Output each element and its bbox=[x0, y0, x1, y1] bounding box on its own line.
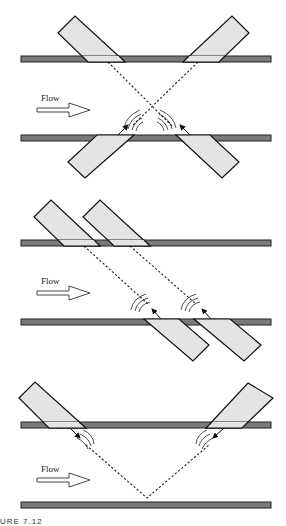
wave-icon bbox=[131, 294, 200, 312]
flowmeter-diagram: Flow Flow bbox=[0, 0, 286, 526]
arrow-icon bbox=[152, 309, 161, 319]
flow-arrow-icon bbox=[37, 473, 90, 487]
transducer-top-right bbox=[183, 16, 249, 62]
arrow-icon bbox=[213, 428, 224, 438]
transducer-top-left-face bbox=[82, 56, 125, 62]
beam-path-2 bbox=[130, 246, 196, 304]
beam-path-1 bbox=[84, 246, 148, 304]
panel-cross-path: Flow bbox=[21, 16, 271, 178]
arrow-icon bbox=[180, 125, 190, 135]
flow-label: Flow bbox=[41, 93, 60, 103]
arrow-icon bbox=[118, 125, 128, 135]
beam-v-path bbox=[86, 445, 209, 498]
pipe-wall-top bbox=[21, 56, 271, 62]
wave-icon bbox=[124, 110, 176, 131]
beam-path-1 bbox=[108, 62, 172, 126]
transducer-left bbox=[19, 382, 86, 428]
figure-caption: URE 7.12 bbox=[0, 517, 43, 526]
flow-arrow-icon bbox=[37, 286, 90, 300]
pipe-wall-bottom bbox=[21, 135, 271, 141]
arrow-icon bbox=[202, 309, 211, 319]
wave-icon bbox=[77, 430, 213, 449]
beam-path-2 bbox=[132, 62, 198, 126]
transducer-top-left bbox=[58, 16, 125, 62]
flow-label: Flow bbox=[41, 276, 60, 286]
flow-label: Flow bbox=[41, 464, 60, 474]
pipe-wall-bottom bbox=[21, 502, 271, 508]
flow-arrow-icon bbox=[37, 103, 90, 117]
panel-parallel-path: Flow bbox=[21, 200, 271, 361]
transducer-right bbox=[206, 383, 273, 428]
arrow-icon bbox=[70, 428, 80, 438]
panel-reflect-v-path: Flow bbox=[19, 382, 273, 508]
transducer-top-right-face bbox=[183, 56, 225, 62]
